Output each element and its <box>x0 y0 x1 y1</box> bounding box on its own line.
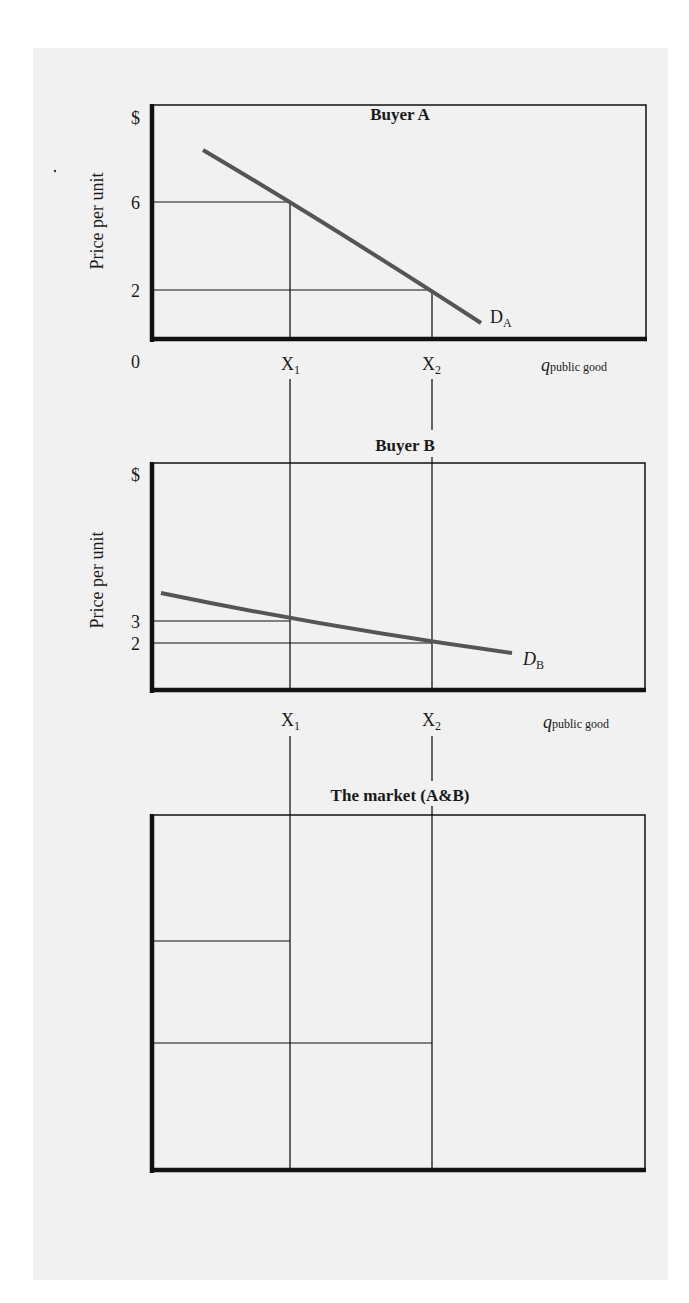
plot-frame <box>152 463 645 690</box>
vertical-guide-lines <box>290 202 432 1170</box>
origin-label: 0 <box>131 352 140 372</box>
x-tick-2: X2 <box>422 354 441 377</box>
chart-title: The market (A&B) <box>331 786 470 805</box>
chart-buyer-a: Buyer A $ 6 2 0 Price per unit X1 X2 qpu… <box>87 104 647 377</box>
chart-buyer-b: Buyer B $ 3 2 Price per unit X1 X2 qpubl… <box>87 436 646 733</box>
curve-label-db: DB <box>522 649 544 672</box>
demand-curve-b <box>161 593 512 653</box>
plot-frame <box>152 105 646 339</box>
y-top-label: $ <box>131 108 140 128</box>
x-axis-quantity-label: qpublic good <box>541 355 607 375</box>
chart-title: Buyer B <box>375 436 435 455</box>
chart-market: The market (A&B) <box>150 786 646 1173</box>
scan-speck <box>54 170 56 172</box>
x-tick-1: X1 <box>281 354 300 377</box>
y-tick-1: 3 <box>131 612 140 632</box>
plot-frame <box>152 815 645 1170</box>
y-tick-2: 2 <box>131 281 140 301</box>
y-tick-1: 6 <box>131 193 140 213</box>
x-tick-2: X2 <box>422 710 441 733</box>
public-good-demand-figure: Buyer A $ 6 2 0 Price per unit X1 X2 qpu… <box>0 0 689 1303</box>
y-tick-2: 2 <box>131 634 140 654</box>
y-axis-label: Price per unit <box>87 532 107 629</box>
x-tick-1: X1 <box>281 710 300 733</box>
x-axis-quantity-label: qpublic good <box>543 712 609 732</box>
curve-label-da: DA <box>490 307 512 330</box>
y-top-label: $ <box>131 465 140 485</box>
demand-curve-a <box>203 150 481 323</box>
chart-title: Buyer A <box>370 105 430 124</box>
y-axis-label: Price per unit <box>87 173 107 270</box>
